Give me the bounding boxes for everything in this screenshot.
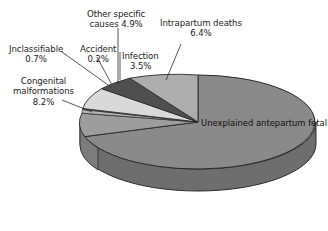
slice-label-line: Jnclassifiable: [9, 44, 63, 54]
slice-value: 8.2%: [13, 97, 74, 107]
slice-label-unexplained-antepartum-fetal-death: Unexplained antepartum fetal death 76.2%: [201, 118, 305, 128]
slice-value: 6.4%: [160, 28, 242, 38]
slice-value: 0.2%: [80, 54, 116, 64]
slice-label-line: Infection: [122, 51, 159, 61]
slice-label-unclassifiable: Jnclassifiable 0.7%: [9, 44, 63, 65]
slice-value: 3.5%: [122, 61, 159, 71]
slice-label-accident: Accident 0.2%: [80, 44, 116, 65]
slice-label-line: Intrapartum deaths: [160, 18, 242, 28]
pie-chart: Other specific causes 4.9% Intrapartum d…: [0, 0, 328, 231]
slice-label-line: Other specific: [87, 9, 145, 19]
slice-label-line: Unexplained: [201, 118, 253, 128]
slice-label-line: malformations: [13, 86, 74, 96]
slice-label-other-specific-causes: Other specific causes 4.9%: [87, 9, 145, 30]
slice-label-intrapartum-deaths: Intrapartum deaths 6.4%: [160, 18, 242, 39]
slice-label-line: causes 4.9%: [87, 19, 145, 29]
slice-label-infection: Infection 3.5%: [122, 51, 159, 72]
slice-label-line: antepartum fetal: [256, 118, 327, 128]
slice-label-line: Congenital: [13, 76, 74, 86]
slice-label-congenital-malformations: Congenital malformations 8.2%: [13, 76, 74, 107]
slice-label-line: Accident: [80, 44, 116, 54]
slice-value: 0.7%: [9, 54, 63, 64]
